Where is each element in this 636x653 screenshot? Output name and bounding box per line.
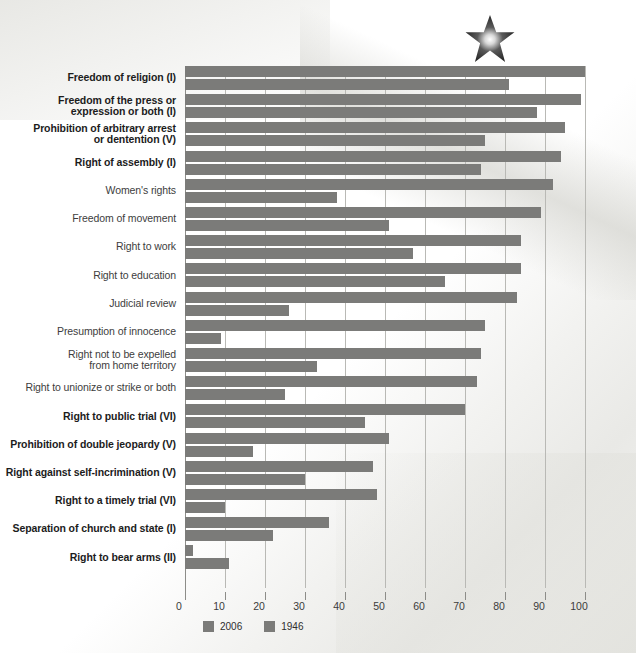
x-tick-label: 20 [253,600,265,612]
bar-group [185,122,585,150]
category-label-line: Women's rights [0,185,176,197]
x-tick-label: 10 [213,600,225,612]
x-tick-label: 30 [293,600,305,612]
bar-2006 [185,461,373,472]
bar-1946 [185,558,229,569]
bar-2006 [185,489,377,500]
bar-group [185,320,585,348]
bar-2006 [185,292,517,303]
bar-group [185,94,585,122]
legend-item-2006: 2006 [203,621,242,632]
x-tickmark [545,592,546,600]
category-label-line: Freedom of movement [0,213,176,225]
category-label: Right to education [0,270,176,282]
x-tick-label: 40 [333,600,345,612]
bar-1946 [185,446,253,457]
bar-1946 [185,248,413,259]
category-label-line: Presumption of innocence [0,326,176,338]
category-label: Right to unionize or strike or both [0,382,176,394]
category-label: Presumption of innocence [0,326,176,338]
category-label: Right to public trial (VI) [0,411,176,423]
bar-2006 [185,376,477,387]
category-label-line: Right to bear arms (II) [0,552,176,564]
category-label-line: Right to unionize or strike or both [0,382,176,394]
category-label-line: Right of assembly (I) [0,157,176,169]
x-tick-label: 50 [373,600,385,612]
x-axis: 0102030405060708090100 [0,600,636,616]
x-tick-label: 90 [533,600,545,612]
bar-group [185,179,585,207]
x-tickmark [265,592,266,600]
category-label: Women's rights [0,185,176,197]
category-label-line: Right to education [0,270,176,282]
bar-1946 [185,107,537,118]
bar-2006 [185,179,553,190]
x-tickmark [505,592,506,600]
x-tick-label: 100 [570,600,588,612]
x-tickmark [225,592,226,600]
category-label: Right of assembly (I) [0,157,176,169]
bar-1946 [185,530,273,541]
bar-1946 [185,305,289,316]
bar-group [185,489,585,517]
bar-2006 [185,151,561,162]
bar-group [185,461,585,489]
category-label-line: or dentention (V) [0,134,176,146]
category-label: Freedom of religion (I) [0,72,176,84]
bar-2006 [185,122,565,133]
category-label-line: Prohibition of double jeopardy (V) [0,439,176,451]
category-label-line: Right to public trial (VI) [0,411,176,423]
category-label-line: Right to work [0,241,176,253]
x-tickmark [465,592,466,600]
category-label-line: from home territory [0,360,176,372]
bar-group [185,151,585,179]
x-tickmark [305,592,306,600]
bar-group [185,376,585,404]
bar-1946 [185,474,305,485]
bar-group [185,348,585,376]
x-tickmark [345,592,346,600]
x-tickmark [425,592,426,600]
category-label: Right not to be expelledfrom home territ… [0,349,176,372]
bar-group [185,235,585,263]
chart-legend: 20061946 [203,621,304,632]
legend-swatch [203,621,214,632]
category-label: Right to bear arms (II) [0,552,176,564]
bar-group [185,263,585,291]
legend-item-1946: 1946 [264,621,303,632]
bar-1946 [185,276,445,287]
bar-2006 [185,404,465,415]
bar-group [185,433,585,461]
bar-1946 [185,333,221,344]
bar-2006 [185,348,481,359]
category-label: Right to work [0,241,176,253]
x-tick-label: 70 [453,600,465,612]
bar-2006 [185,517,329,528]
x-tickmark [385,592,386,600]
category-label-line: Separation of church and state (I) [0,523,176,535]
bar-2006 [185,545,193,556]
bar-1946 [185,79,509,90]
bar-2006 [185,207,541,218]
bar-chart: Freedom of religion (I)Freedom of the pr… [0,0,636,653]
bar-2006 [185,94,581,105]
x-tickmark [185,592,186,600]
bar-2006 [185,320,485,331]
x-tick-label: 60 [413,600,425,612]
category-label-line: Judicial review [0,298,176,310]
bar-group [185,66,585,94]
category-label: Right against self-incrimination (V) [0,467,176,479]
bar-1946 [185,389,285,400]
bar-1946 [185,361,317,372]
bar-1946 [185,192,337,203]
plot-area [185,66,585,588]
bar-2006 [185,66,585,77]
bar-1946 [185,502,225,513]
bar-1946 [185,220,389,231]
category-label-line: Right to a timely trial (VI) [0,495,176,507]
x-tickmark [585,592,586,600]
gridline-100 [585,66,586,588]
category-label: Right to a timely trial (VI) [0,495,176,507]
x-tick-label: 0 [176,600,182,612]
category-label-line: Right against self-incrimination (V) [0,467,176,479]
